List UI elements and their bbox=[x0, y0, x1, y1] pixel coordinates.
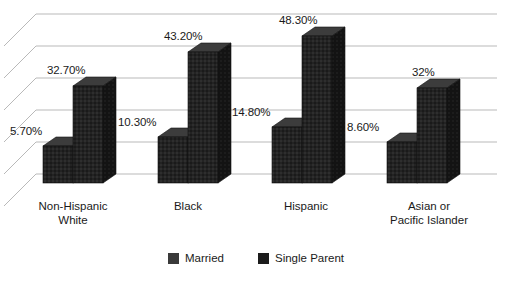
legend-swatch-single-parent-icon bbox=[258, 253, 269, 264]
chart-container: 5.70% 32.70% 10.30% 43.20% 14.80% 48.30%… bbox=[0, 0, 512, 285]
bar-single-parent-non-hispanic-white[interactable] bbox=[73, 77, 116, 183]
bar-group-non-hispanic-white bbox=[43, 77, 116, 183]
chart-plot-area bbox=[0, 0, 512, 285]
bar-single-parent-hispanic[interactable] bbox=[302, 27, 345, 183]
legend-item-single-parent[interactable]: Single Parent bbox=[258, 252, 344, 264]
category-label-hispanic: Hispanic bbox=[248, 199, 364, 213]
data-label-single-parent-non-hispanic-white: 32.70% bbox=[47, 64, 85, 76]
data-label-married-non-hispanic-white: 5.70% bbox=[10, 125, 42, 137]
data-label-married-black: 10.30% bbox=[118, 116, 156, 128]
bar-group-asian-or-pacific-islander bbox=[387, 79, 460, 183]
data-label-single-parent-black: 43.20% bbox=[164, 30, 202, 42]
bar-single-parent-asian-or-pacific-islander[interactable] bbox=[417, 79, 460, 183]
category-label-non-hispanic-white: Non-Hispanic White bbox=[13, 199, 133, 227]
data-label-single-parent-hispanic: 48.30% bbox=[279, 14, 317, 26]
chart-legend: Married Single Parent bbox=[0, 252, 512, 264]
category-label-asian-or-pacific-islander: Asian or Pacific Islander bbox=[366, 199, 492, 227]
bar-single-parent-black[interactable] bbox=[188, 43, 231, 183]
bar-group-black bbox=[158, 43, 231, 183]
legend-label-married: Married bbox=[185, 252, 224, 264]
data-label-single-parent-asian-or-pacific-islander: 32% bbox=[412, 66, 435, 78]
data-label-married-hispanic: 14.80% bbox=[232, 106, 270, 118]
category-label-black: Black bbox=[134, 199, 242, 213]
bar-group-hispanic bbox=[272, 27, 345, 183]
legend-item-married[interactable]: Married bbox=[168, 252, 224, 264]
data-label-married-asian-or-pacific-islander: 8.60% bbox=[347, 121, 379, 133]
legend-swatch-married-icon bbox=[168, 253, 179, 264]
legend-label-single-parent: Single Parent bbox=[275, 252, 344, 264]
depth-axis-lines bbox=[4, 14, 36, 206]
